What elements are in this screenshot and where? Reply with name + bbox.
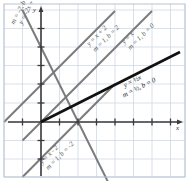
- graph-figure: x y y = -2x + 4 m = -2, b = 4 y = x + 2 …: [0, 0, 189, 181]
- plot-background: [4, 4, 185, 177]
- x-axis-label: x: [176, 124, 179, 132]
- coordinate-plot: [0, 0, 189, 181]
